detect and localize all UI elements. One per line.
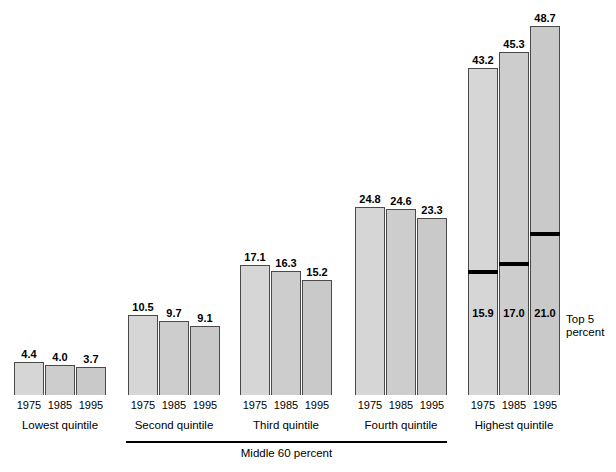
x-tick-label-1975: 1975 [128,399,158,412]
x-tick-label-1995: 1995 [417,399,447,412]
bar-1975[interactable]: 4.4 [14,362,44,395]
bar-value-label: 24.6 [390,195,411,207]
bar-1985[interactable]: 24.6 [386,209,416,395]
top-5-percent-callout-label: Top 5percent [566,313,604,339]
x-tick-label-1995: 1995 [302,399,332,412]
bar-1985[interactable]: 16.3 [271,271,301,395]
x-tick-labels: 197519851995 [468,399,560,412]
bar-rect: 21.0 [530,26,560,395]
group-label-highest-quintile: Highest quintile [468,418,560,432]
bar-value-label: 3.7 [83,353,98,365]
bar-rect: 15.9 [468,68,498,395]
x-tick-label-1995: 1995 [76,399,106,412]
bar-value-label: 17.1 [244,251,265,263]
x-tick-label-1985: 1985 [45,399,75,412]
x-tick-label-1975: 1975 [355,399,385,412]
bar-value-label: 24.8 [359,193,380,205]
bar-1995[interactable]: 3.7 [76,367,106,395]
x-tick-label-1975: 1975 [14,399,44,412]
top5-divider-line [468,270,498,274]
bar-1975[interactable]: 43.215.9 [468,68,498,395]
bar-rect [190,326,220,395]
group-label-third-quintile: Third quintile [240,418,332,432]
middle-60-bracket-line [126,441,447,443]
bar-rect [45,365,75,395]
x-tick-labels: 197519851995 [14,399,106,412]
x-tick-label-1985: 1985 [271,399,301,412]
x-tick-label-1995: 1995 [530,399,560,412]
top-5-percent-line1: Top 5 [566,313,604,326]
bar-rect: 17.0 [499,52,529,395]
bar-1985[interactable]: 9.7 [159,321,189,395]
x-tick-label-1985: 1985 [499,399,529,412]
bar-value-label: 9.1 [197,312,212,324]
bars-container: 10.59.79.1 [128,315,220,395]
x-tick-labels: 197519851995 [355,399,447,412]
bar-value-label: 9.7 [166,307,181,319]
bar-rect [14,362,44,395]
bar-1995[interactable]: 9.1 [190,326,220,395]
bar-group-highest-quintile: 43.215.945.317.048.721.0197519851995High… [468,0,560,472]
bar-rect [240,265,270,395]
x-tick-label-1975: 1975 [240,399,270,412]
bars-container: 17.116.315.2 [240,265,332,395]
chart-canvas: 4.44.03.7197519851995Lowest quintile10.5… [0,0,616,472]
bar-rect [159,321,189,395]
top5-divider-line [499,262,529,266]
bar-value-label: 4.0 [52,351,67,363]
bars-container: 24.824.623.3 [355,207,447,395]
bar-group-fourth-quintile: 24.824.623.3197519851995Fourth quintile [355,0,447,472]
bar-rect [271,271,301,395]
bars-container: 43.215.945.317.048.721.0 [468,26,560,395]
bar-1995[interactable]: 15.2 [302,280,332,395]
bar-group-second-quintile: 10.59.79.1197519851995Second quintile [128,0,220,472]
bar-1985[interactable]: 4.0 [45,365,75,395]
bar-1975[interactable]: 24.8 [355,207,385,395]
bar-rect [76,367,106,395]
group-label-lowest-quintile: Lowest quintile [14,418,106,432]
bar-group-lowest-quintile: 4.44.03.7197519851995Lowest quintile [14,0,106,472]
x-tick-label-1975: 1975 [468,399,498,412]
bar-value-label: 16.3 [275,257,296,269]
bar-value-label: 23.3 [421,204,442,216]
group-label-fourth-quintile: Fourth quintile [355,418,447,432]
x-tick-labels: 197519851995 [128,399,220,412]
bar-rect [128,315,158,395]
top5-value-label: 21.0 [534,307,555,319]
x-tick-labels: 197519851995 [240,399,332,412]
bar-value-label: 15.2 [306,266,327,278]
bar-1975[interactable]: 17.1 [240,265,270,395]
bar-1985[interactable]: 45.317.0 [499,52,529,395]
top-5-percent-line2: percent [566,326,604,339]
bar-rect [302,280,332,395]
bar-value-label: 10.5 [132,301,153,313]
top5-divider-line [530,232,560,236]
top5-value-label: 17.0 [503,307,524,319]
x-tick-label-1985: 1985 [159,399,189,412]
bar-value-label: 43.2 [472,54,493,66]
top5-value-label: 15.9 [472,307,493,319]
bar-1995[interactable]: 48.721.0 [530,26,560,395]
x-tick-label-1995: 1995 [190,399,220,412]
bar-group-third-quintile: 17.116.315.2197519851995Third quintile [240,0,332,472]
group-label-second-quintile: Second quintile [128,418,220,432]
bar-1995[interactable]: 23.3 [417,218,447,395]
bar-1975[interactable]: 10.5 [128,315,158,395]
bar-rect [355,207,385,395]
bar-value-label: 48.7 [534,12,555,24]
x-tick-label-1985: 1985 [386,399,416,412]
bar-rect [386,209,416,395]
bars-container: 4.44.03.7 [14,362,106,395]
bar-value-label: 4.4 [21,348,36,360]
middle-60-bracket-label: Middle 60 percent [126,447,447,459]
bar-value-label: 45.3 [503,38,524,50]
bar-rect [417,218,447,395]
